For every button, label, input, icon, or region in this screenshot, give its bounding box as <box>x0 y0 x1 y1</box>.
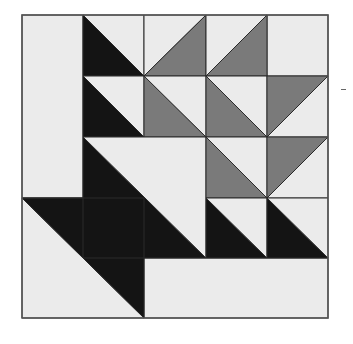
hst-r1-c4 <box>267 76 328 137</box>
hst-r0-c2 <box>144 15 206 76</box>
hst-r1-c3 <box>206 76 267 137</box>
hst-r3-c3 <box>206 198 267 258</box>
left-border-strip <box>22 15 83 198</box>
hst-r0-c1 <box>83 15 144 76</box>
hst-r2-c4 <box>267 137 328 198</box>
hst-r1-c1 <box>83 76 144 137</box>
hst-r0-c3 <box>206 15 267 76</box>
stray-dash-mark <box>341 89 346 90</box>
hst-r1-c2 <box>144 76 206 137</box>
bottom-border-strip <box>144 258 328 318</box>
hst-r3-c4 <box>267 198 328 258</box>
hst-r2-c3 <box>206 137 267 198</box>
top-right-plain-square <box>267 15 328 76</box>
quilt-block-diagram <box>0 0 353 344</box>
marks <box>341 89 346 90</box>
